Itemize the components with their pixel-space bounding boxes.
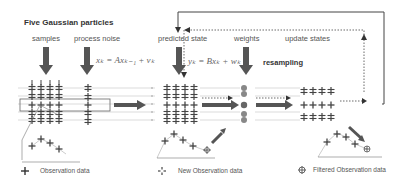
label-samples: samples bbox=[32, 34, 60, 43]
label-process-noise: process noise bbox=[74, 34, 120, 43]
predicted-state-grid bbox=[164, 84, 198, 124]
step-arrow-3 bbox=[256, 96, 293, 111]
plus-marker-icon bbox=[21, 167, 29, 175]
legend-observation-data: Observation data bbox=[40, 167, 90, 174]
diagram-title: Five Gaussian particles bbox=[24, 18, 113, 27]
legend-new-observation-data: New Observation data bbox=[178, 167, 242, 174]
circle-cross-marker-icon bbox=[298, 166, 306, 174]
legend-filtered-observation-data: Filtered Observation data bbox=[313, 166, 386, 173]
label-resampling: resampling bbox=[263, 58, 303, 67]
observation-plot-3 bbox=[318, 127, 382, 157]
label-predicted-state: predicted state bbox=[158, 34, 207, 43]
label-update-states: update states bbox=[285, 34, 330, 43]
update-states-grid bbox=[301, 87, 335, 121]
dots-left-predicted bbox=[151, 87, 153, 121]
observation-plot-2 bbox=[157, 128, 226, 158]
weights-arrow bbox=[239, 47, 253, 75]
label-weights: weights bbox=[234, 34, 259, 43]
samples-arrow bbox=[39, 47, 53, 75]
particle-filter-diagram bbox=[0, 0, 399, 182]
filtered-observation-marker bbox=[364, 146, 370, 152]
weights-column bbox=[241, 85, 247, 123]
process-noise-column bbox=[85, 84, 92, 125]
diamond-cross-marker-icon bbox=[158, 167, 166, 175]
process-noise-arrow bbox=[80, 47, 94, 75]
process-equation: xₖ = Axₖ₋₁ + vₖ bbox=[96, 55, 155, 65]
new-observation-marker bbox=[203, 146, 211, 154]
step-arrow-1 bbox=[114, 100, 146, 110]
observation-plot-1 bbox=[22, 105, 80, 162]
step-arrow-2 bbox=[202, 96, 239, 111]
measurement-equation: yₖ = Bxₖ + wₖ bbox=[188, 56, 241, 66]
